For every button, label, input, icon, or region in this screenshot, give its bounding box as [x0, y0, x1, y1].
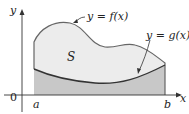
area-between-curves-diagram: y x 0 a b S y = f(x) y = g(x) — [0, 0, 189, 114]
b-label: b — [164, 99, 171, 110]
g-curve-label: y = g(x) — [146, 30, 189, 41]
y-axis-arrow-icon — [20, 9, 25, 15]
f-arrowhead-icon — [73, 19, 78, 23]
y-axis-label: y — [10, 5, 16, 16]
origin-label: 0 — [10, 92, 17, 103]
f-curve-label: y = f(x) — [87, 11, 128, 22]
a-label: a — [33, 99, 40, 110]
x-axis-label: x — [180, 93, 186, 104]
region-s-label: S — [67, 51, 75, 63]
